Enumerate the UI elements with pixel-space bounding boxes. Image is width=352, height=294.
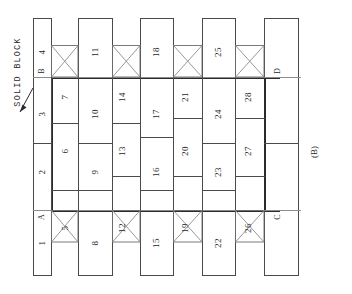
block-number: 12 [118,223,127,233]
block-number: 16 [152,167,161,177]
block-number: 5 [61,226,70,231]
strip-4-bottom-edge [202,275,236,276]
joint-s4-a [202,143,236,144]
block-number: 3 [38,112,47,117]
joint-s3-a [140,137,174,138]
joint-s2-a [78,143,113,144]
joint-c4-a [235,118,265,119]
joint-c1-a [51,123,79,124]
joint-c3-b [173,176,203,177]
block-number: 24 [214,109,223,119]
block-number: 4 [38,50,47,55]
joint-c3-a [173,118,203,119]
joint-c2-a [112,123,141,124]
vjoint-c1r [78,77,79,211]
strip-1-left-edge [33,18,34,276]
vjoint-c3 [173,77,174,211]
vjoint-c1 [51,77,52,211]
strip-5-right-edge [298,18,299,276]
strip-1-top-edge [33,18,52,19]
block-number: 9 [91,170,100,175]
block-number: 10 [91,109,100,119]
block-number: 13 [118,146,127,156]
joint-c1-b [51,190,79,191]
vjoint-c4 [235,77,236,211]
vjoint-c2r [140,77,141,211]
guide-line-top [33,77,301,78]
reference-line-dc-right [264,77,266,211]
guide-line-bottom [33,210,301,211]
block-number: 20 [181,146,190,156]
block-number: 6 [61,149,70,154]
corner-label-b: B [38,68,46,73]
block-number: 25 [214,47,223,57]
block-number: 17 [152,109,161,119]
block-number: 18 [152,47,161,57]
block-number: 22 [214,238,223,248]
strip-1-bottom-edge [33,275,52,276]
block-number: 2 [38,170,47,175]
x-cell-upper-2 [113,46,141,78]
joint-c4-b [235,176,265,177]
block-number: 27 [244,146,253,156]
block-number: 11 [91,47,100,56]
vjoint-c2 [112,77,113,211]
joint-s4-b [202,190,236,191]
joint-s2-b [78,190,113,191]
block-number: 28 [244,92,253,102]
block-number: 1 [38,241,47,246]
block-number: 15 [152,238,161,248]
x-cell-upper-4 [236,46,265,78]
strip-3-bottom-edge [140,275,174,276]
block-number: 23 [214,167,223,177]
corner-label-a: A [38,214,46,220]
vjoint-c3r [202,77,203,211]
joint-c2-b [112,176,141,177]
strip-2-top-edge [78,18,113,19]
x-cell-upper-3 [174,46,203,78]
strip-2-bottom-edge [78,275,113,276]
strip-3-top-edge [140,18,174,19]
block-number: 8 [91,241,100,246]
joint-s1-a [33,143,52,144]
x-cell-upper-1 [52,46,79,78]
corner-label-d: D [274,68,282,74]
solid-block-annotation: SOLID BLOCK [14,37,23,106]
block-number: 26 [244,223,253,233]
strip-5-bottom-edge [264,275,299,276]
corner-label-c: C [274,214,282,219]
joint-s3-b [140,190,174,191]
block-number: 21 [181,92,190,102]
strip-5-top-edge [264,18,299,19]
block-number: 14 [118,92,127,102]
masonry-bond-diagram: 1 2 3 4 5 6 7 8 9 10 11 12 13 14 15 16 1… [0,0,352,294]
figure-caption: (B) [310,146,319,158]
joint-s5-a [264,143,299,144]
block-number: 19 [181,223,190,233]
block-number: 7 [61,95,70,100]
strip-4-top-edge [202,18,236,19]
